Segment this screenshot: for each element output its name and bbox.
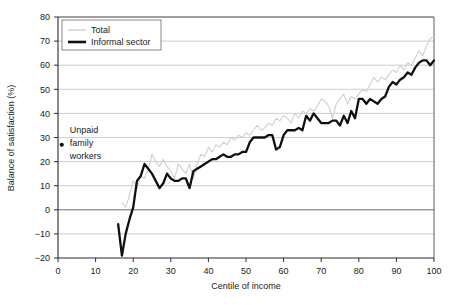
annotation-label-unpaid-family-workers-line-2: workers — [69, 151, 102, 161]
y-tick-label-80: 80 — [40, 12, 50, 22]
y-axis-ticks — [54, 17, 58, 258]
x-tick-label-60: 60 — [279, 266, 289, 276]
chart-legend: Total Informal sector — [62, 20, 161, 50]
x-tick-label-10: 10 — [91, 266, 101, 276]
legend-label-total: Total — [91, 25, 110, 35]
y-axis-title: Balance of satisfaction (%) — [6, 85, 16, 192]
x-tick-label-0: 0 — [55, 266, 60, 276]
x-tick-label-100: 100 — [426, 266, 441, 276]
x-tick-label-20: 20 — [128, 266, 138, 276]
y-axis-tick-labels: −20−1001020304050607080 — [35, 12, 50, 263]
y-tick-label-20: 20 — [40, 157, 50, 167]
annotation-label-unpaid-family-workers-line-0: Unpaid — [70, 125, 99, 135]
y-tick-label-70: 70 — [40, 36, 50, 46]
y-tick-label-40: 40 — [40, 109, 50, 119]
y-tick-label-60: 60 — [40, 60, 50, 70]
y-tick-label-30: 30 — [40, 133, 50, 143]
x-tick-label-80: 80 — [354, 266, 364, 276]
y-tick-label-10: 10 — [40, 181, 50, 191]
x-tick-label-50: 50 — [241, 266, 251, 276]
annotation-label-unpaid-family-workers-line-1: family — [70, 138, 94, 148]
y-tick-label-50: 50 — [40, 85, 50, 95]
x-tick-label-40: 40 — [203, 266, 213, 276]
y-tick-label--20: −20 — [35, 253, 50, 263]
x-axis-title: Centile of income — [211, 281, 281, 291]
legend-label-informal-sector: Informal sector — [91, 37, 151, 47]
chart-container: 0102030405060708090100 −20−1001020304050… — [0, 0, 454, 305]
x-tick-label-90: 90 — [391, 266, 401, 276]
y-tick-label--10: −10 — [35, 229, 50, 239]
x-tick-label-30: 30 — [166, 266, 176, 276]
x-tick-label-70: 70 — [316, 266, 326, 276]
balance-of-satisfaction-line-chart: 0102030405060708090100 −20−1001020304050… — [0, 0, 454, 305]
x-axis-tick-labels: 0102030405060708090100 — [55, 266, 441, 276]
y-tick-label-0: 0 — [45, 205, 50, 215]
x-axis-ticks — [58, 258, 434, 262]
annotation-marker-unpaid-family-workers — [60, 143, 64, 147]
